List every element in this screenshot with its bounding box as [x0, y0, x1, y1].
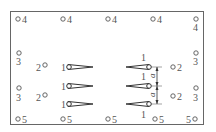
node-label: 5: [22, 114, 27, 125]
wedge-label: 1: [61, 81, 66, 92]
left-node-2: 3: [16, 86, 21, 103]
right-wedge-3: 1: [126, 102, 151, 121]
left-inner-node-1: 2: [36, 62, 47, 73]
node-label: 4: [193, 22, 198, 33]
wedge-shape: [126, 84, 149, 89]
bottom-node-3: 5: [106, 114, 117, 125]
arrow-icon: [156, 86, 159, 90]
node-label: 2: [36, 92, 41, 103]
bottom-node-2: 5: [61, 114, 72, 125]
node-label: 2: [177, 62, 182, 73]
dimension-label: a: [147, 73, 157, 78]
node-circle: [61, 117, 65, 121]
node-circle: [171, 65, 175, 69]
wedge-circle: [147, 102, 152, 107]
node-label: 5: [159, 114, 164, 125]
right-inner-node-1: 2: [171, 62, 182, 73]
node-circle: [17, 51, 21, 55]
node-label: 4: [22, 14, 27, 25]
node-circle: [151, 17, 155, 21]
node-label: 3: [193, 92, 198, 103]
node-circle: [193, 117, 197, 121]
node-circle: [17, 86, 21, 90]
node-label: 3: [16, 56, 21, 67]
bottom-node-1: 5: [16, 114, 27, 125]
left-wedge-2: 1: [61, 81, 93, 92]
wedge-circle: [67, 102, 72, 107]
wedge-shape: [126, 65, 149, 70]
bottom-node-5: 5: [186, 114, 197, 125]
node-circle: [171, 94, 175, 98]
node-circle: [61, 17, 65, 21]
arrow-icon: [156, 82, 159, 86]
top-node-4: 4: [151, 14, 162, 25]
dimension-label: a: [147, 92, 157, 97]
node-circle: [43, 63, 47, 67]
arrow-icon: [156, 100, 159, 104]
right-inner-node-2: 2: [171, 91, 182, 102]
node-circle: [194, 17, 198, 21]
top-node-2: 4: [61, 14, 72, 25]
diagram-canvas: 4 4 4 4 4 3 3 2 2 1 1: [0, 0, 216, 132]
node-circle: [153, 117, 157, 121]
left-wedge-3: 1: [61, 99, 93, 110]
node-circle: [194, 51, 198, 55]
wedge-circle: [67, 65, 72, 70]
left-node-1: 3: [16, 51, 21, 67]
top-node-3: 4: [106, 14, 117, 25]
node-circle: [194, 86, 198, 90]
arrow-icon: [156, 67, 159, 71]
top-node-5: 4: [193, 17, 198, 33]
wedge-label: 1: [141, 71, 146, 82]
wedge-circle: [67, 84, 72, 89]
node-circle: [16, 17, 20, 21]
right-node-1: 3: [193, 51, 198, 67]
wedge-shape: [126, 102, 149, 107]
node-label: 3: [193, 56, 198, 67]
left-wedge-1: 1: [61, 62, 93, 73]
node-circle: [106, 17, 110, 21]
wedge-label: 1: [141, 52, 146, 63]
node-label: 5: [186, 114, 191, 125]
node-label: 4: [67, 14, 72, 25]
node-label: 4: [112, 14, 117, 25]
wedge-circle: [147, 65, 152, 70]
node-circle: [106, 117, 110, 121]
left-inner-node-2: 2: [36, 92, 47, 103]
node-circle: [43, 93, 47, 97]
right-wedge-1: 1: [126, 52, 151, 70]
wedge-circle: [147, 84, 152, 89]
node-label: 4: [157, 14, 162, 25]
wedge-label: 1: [141, 109, 146, 120]
wedge-label: 1: [61, 62, 66, 73]
top-node-1: 4: [16, 14, 27, 25]
node-label: 3: [16, 92, 21, 103]
node-label: 2: [36, 62, 41, 73]
node-circle: [16, 117, 20, 121]
right-node-2: 3: [193, 86, 198, 103]
wedge-label: 1: [61, 99, 66, 110]
bottom-node-4: 5: [153, 114, 164, 125]
node-label: 5: [67, 114, 72, 125]
node-label: 5: [112, 114, 117, 125]
node-label: 2: [177, 91, 182, 102]
